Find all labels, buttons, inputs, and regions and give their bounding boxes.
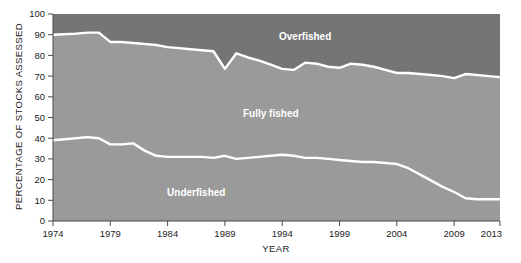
- y-tick-label: 0: [40, 215, 45, 226]
- band-label-fully-fished: Fully fished: [243, 108, 299, 119]
- x-tick-label: 2009: [444, 228, 465, 239]
- y-tick-label: 80: [34, 50, 45, 61]
- x-tick-label: 1974: [42, 228, 63, 239]
- x-axis-title: YEAR: [262, 243, 289, 254]
- y-tick-label: 70: [34, 71, 45, 82]
- x-tick-label: 2013: [481, 228, 502, 239]
- band-label-underfished: Underfished: [167, 187, 225, 198]
- y-tick-label: 90: [34, 29, 45, 40]
- y-tick-label: 40: [34, 133, 45, 144]
- x-tick-label: 2004: [386, 228, 407, 239]
- x-tick-label: 1989: [214, 228, 235, 239]
- y-tick-label: 10: [34, 195, 45, 206]
- fisheries-stock-status-area-chart: 0102030405060708090100 19741979198419891…: [0, 0, 521, 263]
- y-tick-label: 20: [34, 174, 45, 185]
- y-tick-label: 100: [29, 8, 45, 19]
- x-tick-label: 1994: [272, 228, 293, 239]
- x-tick-label: 1999: [329, 228, 350, 239]
- band-label-overfished: Overfished: [279, 31, 331, 42]
- y-tick-label: 60: [34, 91, 45, 102]
- y-axis-title: PERCENTAGE OF STOCKS ASSESSED: [13, 23, 24, 210]
- x-tick-label: 1984: [157, 228, 178, 239]
- y-tick-label: 30: [34, 153, 45, 164]
- y-tick-label: 50: [34, 112, 45, 123]
- x-tick-label: 1979: [100, 228, 121, 239]
